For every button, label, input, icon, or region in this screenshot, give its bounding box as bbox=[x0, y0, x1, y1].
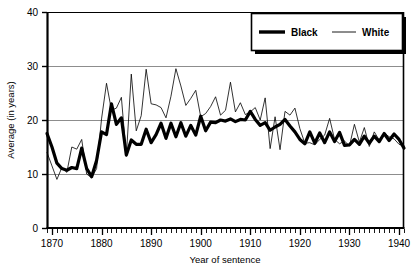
chart-figure: 18701880189019001910192019301940 0102030… bbox=[0, 0, 419, 268]
legend-label-white: White bbox=[362, 27, 390, 38]
y-tick-label-30: 30 bbox=[27, 61, 39, 72]
y-tick-label-0: 0 bbox=[32, 223, 38, 234]
x-tick-label-1900: 1900 bbox=[190, 238, 213, 249]
y-tick-label-40: 40 bbox=[27, 7, 39, 18]
y-tick-label-10: 10 bbox=[27, 169, 39, 180]
y-axis-title: Average (in years) bbox=[5, 81, 16, 158]
x-tick-label-1890: 1890 bbox=[140, 238, 163, 249]
x-tick-label-1920: 1920 bbox=[289, 238, 312, 249]
x-tick-label-1870: 1870 bbox=[41, 238, 64, 249]
x-axis-title: Year of sentence bbox=[190, 254, 261, 265]
line-chart: 18701880189019001910192019301940 0102030… bbox=[0, 0, 419, 268]
chart-legend: Black White bbox=[252, 14, 407, 55]
x-tick-label-1880: 1880 bbox=[90, 238, 113, 249]
y-tick-label-20: 20 bbox=[27, 115, 39, 126]
x-tick-label-1930: 1930 bbox=[338, 238, 361, 249]
x-tick-label-1940: 1940 bbox=[388, 238, 411, 249]
x-tick-label-1910: 1910 bbox=[239, 238, 262, 249]
legend-label-black: Black bbox=[291, 27, 318, 38]
